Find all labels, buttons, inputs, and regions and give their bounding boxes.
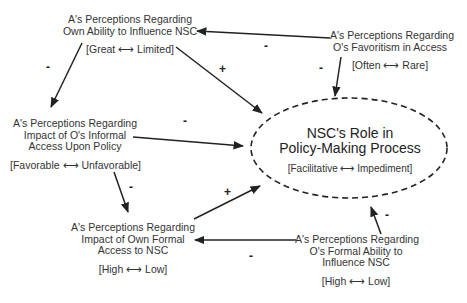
node-own-formal-access-scale: [High ⟷ Low] xyxy=(70,264,196,276)
node-favoritism-scale: [Often ⟷ Rare] xyxy=(330,60,450,72)
node-favoritism-title-line: O's Favoritism in Access xyxy=(330,42,450,54)
sign-favoritism-to-own-ability: - xyxy=(264,39,268,53)
node-o-formal-ability-title-line: Influence NSC xyxy=(295,257,417,269)
node-nsc-role-title-line: NSC's Role in xyxy=(270,126,430,141)
node-own-formal-access-title-line: A's Perceptions Regarding xyxy=(70,222,196,234)
sign-own-formal-access-to-nsc-role: + xyxy=(224,185,231,199)
node-o-formal-ability-scale: [High ⟷ Low] xyxy=(295,276,417,288)
node-own-ability: A's Perceptions Regarding Own Ability to… xyxy=(60,14,200,56)
node-informal-access-scale: [Favorable ⟷ Unfavorable] xyxy=(10,160,140,172)
node-o-formal-ability-title-line: A's Perceptions Regarding xyxy=(295,234,417,246)
node-nsc-role: NSC's Role in Policy-Making Process [Fac… xyxy=(270,126,430,175)
arrow-favoritism-to-own-ability xyxy=(197,31,330,38)
node-informal-access-title-line: A's Perceptions Regarding xyxy=(10,118,140,130)
sign-own-ability-to-informal-access: - xyxy=(46,60,50,74)
arrow-informal-access-to-own-formal-access xyxy=(114,172,128,212)
node-own-ability-title-line: Own Ability to Influence NSC xyxy=(60,26,200,38)
node-favoritism-title-line: A's Perceptions Regarding xyxy=(330,30,450,42)
node-favoritism: A's Perceptions Regarding O's Favoritism… xyxy=(330,30,450,72)
sign-informal-access-to-nsc-role: - xyxy=(183,114,187,128)
node-own-ability-scale: [Great ⟷ Limited] xyxy=(60,44,200,56)
arrow-informal-access-to-nsc-role xyxy=(133,137,243,146)
node-nsc-role-title-line: Policy-Making Process xyxy=(270,141,430,156)
node-informal-access: A's Perceptions Regarding Impact of O's … xyxy=(10,118,140,171)
arrow-o-formal-ability-to-nsc-role xyxy=(371,207,381,234)
node-own-formal-access-title-line: Access to NSC xyxy=(70,245,196,257)
node-informal-access-title-line: Access Upon Policy xyxy=(10,141,140,153)
sign-informal-access-to-own-formal-access: - xyxy=(129,180,133,194)
node-nsc-role-scale: [Facilitative ⟷ Impediment] xyxy=(270,163,430,175)
arrow-own-ability-to-nsc-role xyxy=(176,47,262,113)
node-o-formal-ability: A's Perceptions Regarding O's Formal Abi… xyxy=(295,234,417,287)
sign-own-ability-to-nsc-role: + xyxy=(219,62,226,76)
node-own-formal-access: A's Perceptions Regarding Impact of Own … xyxy=(70,222,196,275)
sign-favoritism-to-nsc-role: - xyxy=(319,61,323,75)
sign-o-formal-ability-to-own-formal-access: - xyxy=(249,249,253,263)
node-own-ability-title-line: A's Perceptions Regarding xyxy=(60,14,200,26)
sign-o-formal-ability-to-nsc-role: - xyxy=(385,208,389,222)
